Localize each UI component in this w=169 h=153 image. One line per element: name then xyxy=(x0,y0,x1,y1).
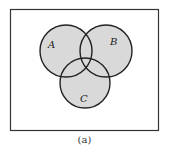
set-c-label: C xyxy=(80,93,88,104)
set-b-label: B xyxy=(109,36,117,47)
venn-diagram: A B C xyxy=(0,0,169,153)
set-a-label: A xyxy=(47,39,55,50)
figure-caption: (a) xyxy=(0,134,169,145)
